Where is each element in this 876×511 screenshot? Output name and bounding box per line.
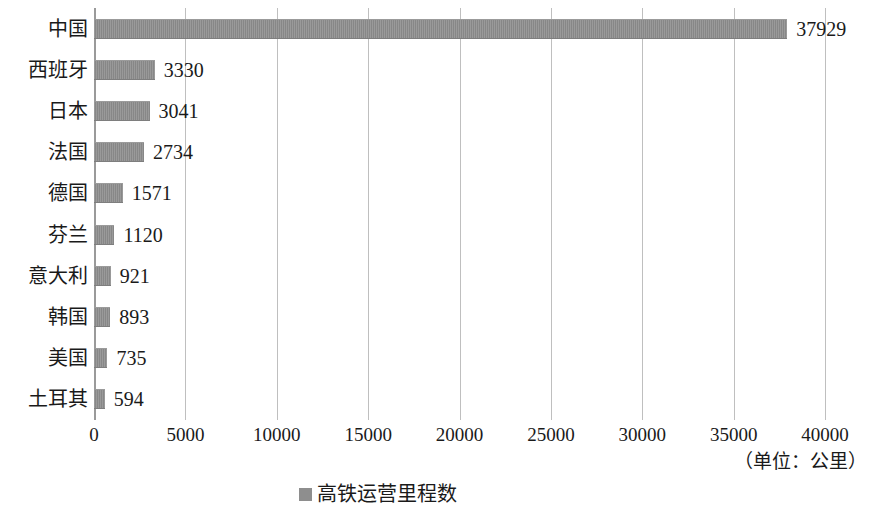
- bar-value-label: 1571: [132, 183, 172, 203]
- bar-value-label: 37929: [796, 19, 846, 39]
- legend-item: 高铁运营里程数: [299, 484, 457, 504]
- tick-label: 25000: [527, 425, 575, 444]
- unit-annotation: （单位：公里）: [734, 452, 867, 471]
- category-label: 意大利: [0, 266, 88, 286]
- legend-square-marker-icon: [299, 488, 312, 501]
- bar-value-label: 594: [114, 389, 144, 409]
- plot-area: 3792933303041273415711120921893735594: [94, 8, 825, 420]
- tick-label: 15000: [344, 425, 392, 444]
- tick-label: 0: [89, 425, 99, 444]
- bar-value-label: 921: [120, 266, 150, 286]
- bar-row: 1120: [94, 222, 825, 248]
- bar-row: 735: [94, 345, 825, 371]
- legend-item-label: 高铁运营里程数: [317, 484, 457, 504]
- bar-value-label: 893: [119, 307, 149, 327]
- bar-row: 3041: [94, 98, 825, 124]
- category-label: 法国: [0, 142, 88, 162]
- bar: [94, 348, 107, 368]
- category-label: 德国: [0, 183, 88, 203]
- category-label: 中国: [0, 19, 88, 39]
- tick-label: 40000: [801, 425, 849, 444]
- bar-row: 1571: [94, 180, 825, 206]
- bar: [94, 60, 155, 80]
- bar: [94, 307, 110, 327]
- high-speed-rail-mileage-bar-chart: 中国西班牙日本法国德国芬兰意大利韩国美国土耳其 3792933303041273…: [0, 0, 876, 511]
- bar: [94, 389, 105, 409]
- category-label: 西班牙: [0, 60, 88, 80]
- tick-label: 30000: [619, 425, 667, 444]
- tick-label: 10000: [253, 425, 301, 444]
- chart-legend: 高铁运营里程数: [0, 484, 876, 504]
- bar: [94, 101, 150, 121]
- tick-label: 35000: [710, 425, 758, 444]
- bar: [94, 183, 123, 203]
- category-label: 韩国: [0, 307, 88, 327]
- bar-value-label: 1120: [123, 225, 162, 245]
- bar-value-label: 2734: [153, 142, 193, 162]
- bar-row: 594: [94, 386, 825, 412]
- bar-value-label: 735: [116, 348, 146, 368]
- category-label: 日本: [0, 101, 88, 121]
- bar-row: 37929: [94, 16, 825, 42]
- bar-value-label: 3041: [159, 101, 199, 121]
- category-label: 美国: [0, 348, 88, 368]
- bar-row: 893: [94, 304, 825, 330]
- tick-label: 5000: [166, 425, 204, 444]
- bar: [94, 266, 111, 286]
- category-axis-labels: 中国西班牙日本法国德国芬兰意大利韩国美国土耳其: [0, 8, 88, 420]
- bar-row: 921: [94, 263, 825, 289]
- gridline: [825, 8, 826, 420]
- tick-label: 20000: [436, 425, 484, 444]
- bar-rows: 3792933303041273415711120921893735594: [94, 8, 825, 420]
- bar-value-label: 3330: [164, 60, 204, 80]
- bar: [94, 225, 114, 245]
- bar: [94, 19, 787, 39]
- bar-row: 2734: [94, 139, 825, 165]
- bar-row: 3330: [94, 57, 825, 83]
- bar: [94, 142, 144, 162]
- category-label: 芬兰: [0, 225, 88, 245]
- category-label: 土耳其: [0, 389, 88, 409]
